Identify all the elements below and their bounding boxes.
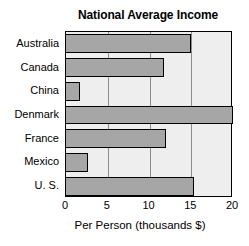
y-axis-label-denmark: Denmark bbox=[14, 108, 59, 120]
y-axis-label-mexico: Mexico bbox=[24, 155, 59, 167]
bar-canada bbox=[65, 58, 164, 77]
bar-row bbox=[66, 129, 231, 148]
bar-row bbox=[66, 153, 231, 172]
y-axis-label-france: France bbox=[25, 132, 59, 144]
bar-china bbox=[65, 82, 80, 101]
bar-row bbox=[66, 34, 231, 53]
bar-u-s bbox=[65, 177, 194, 196]
bar-chart: National Average Income AustraliaCanadaC… bbox=[0, 0, 249, 246]
bar-row bbox=[66, 177, 231, 196]
chart-title: National Average Income bbox=[62, 8, 234, 22]
x-tick-label-10: 10 bbox=[142, 199, 154, 212]
plot-area bbox=[65, 31, 232, 197]
x-tick-label-15: 15 bbox=[184, 199, 196, 212]
y-axis-label-u-s: U. S. bbox=[35, 179, 59, 191]
x-axis-ticks: 05101520 bbox=[0, 199, 249, 215]
y-axis-category-labels: AustraliaCanadaChinaDenmarkFranceMexicoU… bbox=[0, 31, 62, 197]
bar-australia bbox=[65, 34, 191, 53]
x-axis-label: Per Person (thousands $) bbox=[40, 218, 240, 232]
bar-france bbox=[65, 129, 166, 148]
bar-row bbox=[66, 82, 231, 101]
bar-mexico bbox=[65, 153, 88, 172]
y-axis-label-australia: Australia bbox=[16, 37, 59, 49]
y-axis-label-china: China bbox=[30, 84, 59, 96]
bar-denmark bbox=[65, 106, 233, 125]
x-tick-label-0: 0 bbox=[62, 199, 68, 212]
bars-layer bbox=[66, 32, 231, 196]
x-tick-label-20: 20 bbox=[226, 199, 238, 212]
x-tick-label-5: 5 bbox=[104, 199, 110, 212]
bar-row bbox=[66, 106, 231, 125]
bar-row bbox=[66, 58, 231, 77]
y-axis-label-canada: Canada bbox=[20, 61, 59, 73]
